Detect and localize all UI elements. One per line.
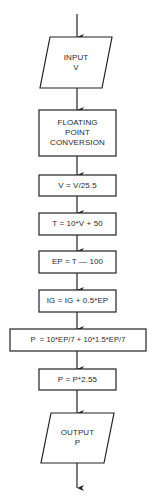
- output-label-line-2: P: [75, 438, 80, 448]
- scale-p-label: P = P*2.55: [39, 369, 116, 390]
- compute-ep-text: EP = T — 100: [52, 257, 103, 267]
- compute-t-text: T = 10*V + 50: [52, 219, 103, 229]
- compute-p-text: P = 10*EP/7 + 10*1.5*EP/7: [30, 335, 125, 345]
- compute-ep-label: EP = T — 100: [39, 251, 116, 273]
- fp-conversion-line-3: CONVERSION: [50, 138, 105, 148]
- compute-ig-text: IG = IG + 0.5*EP: [47, 296, 109, 306]
- input-label: INPUT V: [40, 37, 112, 88]
- scale-p-text: P = P*2.55: [58, 375, 97, 385]
- output-label: OUTPUT P: [41, 413, 114, 463]
- input-label-line-1: INPUT: [64, 53, 89, 63]
- compute-t-label: T = 10*V + 50: [39, 213, 116, 235]
- input-label-line-2: V: [73, 63, 78, 73]
- fp-conversion-line-1: FLOATING: [57, 118, 97, 128]
- compute-p-label: P = 10*EP/7 + 10*1.5*EP/7: [10, 329, 146, 351]
- fp-conversion-line-2: POINT: [65, 128, 90, 138]
- fp-conversion-label: FLOATING POINT CONVERSION: [39, 110, 116, 156]
- scale-v-label: V = V/25.5: [39, 175, 116, 196]
- output-label-line-1: OUTPUT: [61, 428, 95, 438]
- scale-v-text: V = V/25.5: [58, 181, 97, 191]
- compute-ig-label: IG = IG + 0.5*EP: [39, 290, 116, 312]
